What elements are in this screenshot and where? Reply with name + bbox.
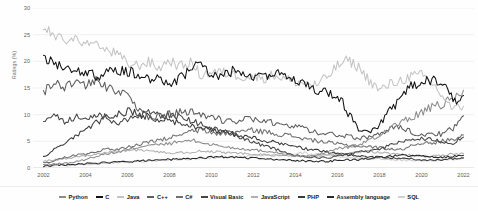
x-tick-label: 2012 bbox=[239, 172, 269, 178]
y-tick-label: 5 bbox=[14, 138, 30, 144]
legend-item[interactable]: JavaScript bbox=[251, 194, 289, 200]
legend-label: Visual Basic bbox=[210, 194, 243, 200]
x-tick-label: 2016 bbox=[323, 172, 353, 178]
legend-swatch-icon bbox=[117, 196, 124, 198]
legend-item[interactable]: Java bbox=[117, 194, 139, 200]
legend-swatch-icon bbox=[59, 196, 66, 198]
legend-swatch-icon bbox=[327, 196, 334, 198]
legend-label: JavaScript bbox=[261, 194, 290, 200]
y-tick-label: 15 bbox=[14, 85, 30, 91]
x-tick-label: 2010 bbox=[197, 172, 227, 178]
legend-item[interactable]: C# bbox=[176, 194, 193, 200]
plot-svg bbox=[33, 8, 474, 168]
series-line bbox=[44, 110, 464, 159]
legend-label: Java bbox=[127, 194, 140, 200]
x-tick-label: 2004 bbox=[71, 172, 101, 178]
legend-item[interactable]: C bbox=[96, 194, 110, 200]
legend-swatch-icon bbox=[298, 196, 305, 198]
legend-label: Python bbox=[68, 194, 87, 200]
line-chart: Ratings (%) 051015202530 200220042006200… bbox=[0, 0, 478, 211]
x-tick-label: 2018 bbox=[365, 172, 395, 178]
y-tick-label: 30 bbox=[14, 5, 30, 11]
y-tick-label: 0 bbox=[14, 165, 30, 171]
x-tick-label: 2014 bbox=[281, 172, 311, 178]
legend-label: C++ bbox=[157, 194, 168, 200]
x-tick-label: 2008 bbox=[155, 172, 185, 178]
legend-swatch-icon bbox=[251, 196, 258, 198]
x-tick-label: 2020 bbox=[407, 172, 437, 178]
chart-legend: PythonCJavaC++C#Visual BasicJavaScriptPH… bbox=[0, 190, 478, 204]
legend-item[interactable]: PHP bbox=[298, 194, 319, 200]
x-tick-label: 2022 bbox=[449, 172, 478, 178]
legend-swatch-icon bbox=[201, 196, 208, 198]
legend-divider bbox=[0, 186, 478, 187]
legend-label: C# bbox=[185, 194, 192, 200]
legend-swatch-icon bbox=[147, 196, 154, 198]
series-line bbox=[44, 154, 464, 166]
legend-swatch-icon bbox=[176, 196, 183, 198]
legend-label: PHP bbox=[307, 194, 319, 200]
legend-swatch-icon bbox=[96, 196, 103, 198]
y-tick-label: 10 bbox=[14, 112, 30, 118]
series-line bbox=[44, 90, 464, 165]
legend-item[interactable]: SQL bbox=[398, 194, 419, 200]
legend-item[interactable]: Assembly language bbox=[327, 194, 390, 200]
legend-label: Assembly language bbox=[336, 194, 389, 200]
x-tick-label: 2002 bbox=[29, 172, 59, 178]
plot-area bbox=[33, 8, 474, 168]
legend-item[interactable]: C++ bbox=[147, 194, 167, 200]
legend-item[interactable]: Python bbox=[59, 194, 88, 200]
legend-item[interactable]: Visual Basic bbox=[201, 194, 244, 200]
y-tick-label: 25 bbox=[14, 32, 30, 38]
legend-label: SQL bbox=[407, 194, 419, 200]
y-tick-label: 20 bbox=[14, 58, 30, 64]
series-line bbox=[44, 76, 464, 140]
x-tick-label: 2006 bbox=[113, 172, 143, 178]
legend-swatch-icon bbox=[398, 196, 405, 198]
legend-label: C bbox=[105, 194, 109, 200]
